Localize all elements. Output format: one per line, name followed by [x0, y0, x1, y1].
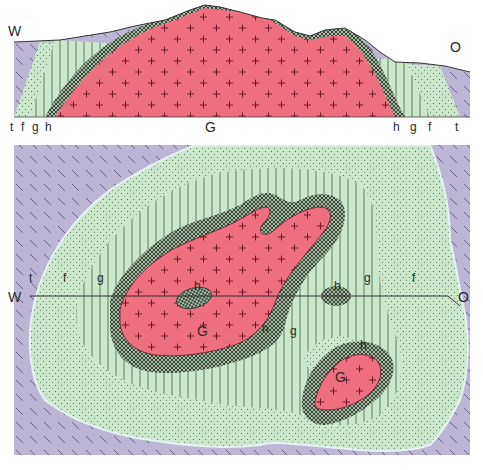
map-small-hornfels-label: h [334, 279, 341, 293]
section-label-h-left: h [45, 120, 52, 134]
map-main-hornfels-label: h [262, 322, 269, 336]
cross-section: W O G t f g h h g f t [8, 0, 470, 135]
map-inner-hornfels-label: h [194, 279, 201, 293]
map-main-granite-label: G [197, 323, 208, 339]
section-label-f-left: f [21, 120, 25, 134]
section-label-h-right: h [393, 120, 400, 134]
granite-body [55, 8, 395, 117]
section-label-f-right: f [428, 120, 432, 134]
geology-diagram: W O G t f g h h g f t [0, 0, 483, 470]
map-view [14, 145, 470, 455]
section-east-label: O [450, 39, 461, 55]
map-label-g-right: g [364, 271, 371, 285]
map-mid-g-label: g [290, 324, 297, 338]
map-second-granite-label: G [335, 369, 346, 385]
section-west-label: W [8, 23, 22, 39]
map-label-g-left: g [97, 271, 104, 285]
map-west-label: W [8, 289, 22, 305]
map-east-label: O [458, 289, 469, 305]
section-label-t-right: t [455, 120, 459, 134]
section-label-g-right: g [410, 120, 417, 134]
map-second-hornfels-label: h [360, 338, 367, 352]
section-label-g-left: g [32, 120, 39, 134]
section-granite-label: G [205, 119, 216, 135]
section-label-t-left: t [10, 120, 14, 134]
